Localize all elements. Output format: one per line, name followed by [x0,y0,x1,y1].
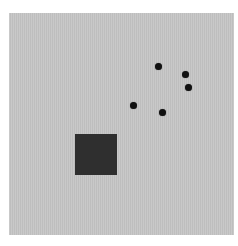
black-dot [130,102,137,109]
black-dot [155,63,162,70]
black-dot [182,71,189,78]
dark-square [75,134,117,175]
gray-panel [9,13,234,235]
image-canvas [0,0,238,246]
black-dot [185,84,192,91]
black-dot [159,109,166,116]
